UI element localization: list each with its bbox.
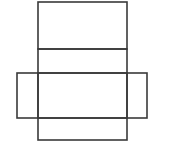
back-face (38, 49, 127, 73)
cuboid-net-diagram (0, 0, 178, 143)
cuboid-net-svg (0, 0, 178, 143)
top-face (38, 2, 127, 49)
left-face (17, 73, 38, 118)
right-face (127, 73, 147, 118)
bottom-face (38, 73, 127, 118)
front-face (38, 118, 127, 140)
